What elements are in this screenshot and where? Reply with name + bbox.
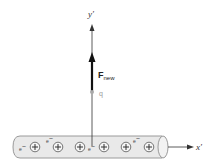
charge-label: q (99, 90, 103, 98)
ion (121, 142, 131, 152)
ion (30, 142, 40, 152)
y-axis-label: y′ (87, 9, 95, 19)
electron-charge-sign: − (22, 143, 26, 150)
ion (99, 142, 109, 152)
x-axis-arrowhead (187, 145, 194, 150)
ion (75, 142, 85, 152)
electron-charge-sign: − (49, 135, 53, 142)
force-arrowhead (89, 52, 96, 62)
ion (53, 142, 63, 152)
y-axis-arrowhead (90, 24, 95, 31)
charge-q (90, 90, 94, 94)
force-label: Fnew (98, 70, 115, 81)
force-label-sub: new (104, 75, 116, 81)
x-axis-label: x′ (195, 142, 203, 152)
wire-end-cap (158, 136, 168, 158)
electron-charge-sign: − (91, 143, 95, 150)
electron-charge-sign: − (136, 135, 140, 142)
ion (144, 142, 154, 152)
diagram-canvas: e−e−e−e− y′ x′ Fnew q (0, 0, 214, 167)
